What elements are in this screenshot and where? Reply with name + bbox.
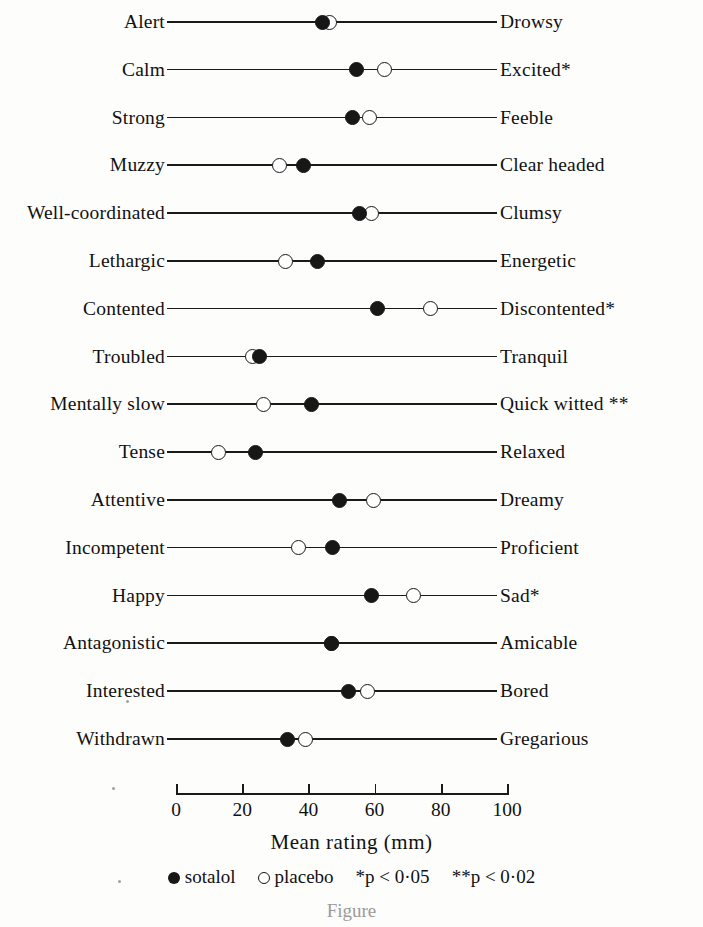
chart-row: WithdrawnGregarious bbox=[0, 725, 703, 753]
sotalol-point bbox=[349, 62, 364, 77]
axis-tick-label: 80 bbox=[431, 799, 451, 821]
axis-tick bbox=[375, 784, 377, 795]
row-left-label: Attentive bbox=[91, 486, 165, 514]
row-scale-line bbox=[167, 595, 497, 597]
scan-speck bbox=[126, 700, 129, 703]
axis-tick-label: 20 bbox=[232, 799, 252, 821]
row-right-label: Quick witted ** bbox=[500, 390, 629, 418]
legend-note-p002: **p < 0·02 bbox=[452, 866, 536, 887]
chart-legend: sotalolplacebo*p < 0·05**p < 0·02 bbox=[0, 866, 703, 888]
sotalol-point bbox=[310, 254, 325, 269]
row-scale-line bbox=[167, 738, 497, 740]
row-right-label: Bored bbox=[500, 677, 549, 705]
placebo-point bbox=[364, 206, 379, 221]
row-scale-line bbox=[167, 212, 497, 214]
axis-tick bbox=[242, 784, 244, 795]
row-scale-line bbox=[167, 356, 497, 358]
chart-row: HappySad* bbox=[0, 582, 703, 610]
sotalol-point bbox=[341, 684, 356, 699]
row-left-label: Alert bbox=[124, 8, 165, 36]
axis-tick-label: 100 bbox=[492, 799, 521, 821]
row-scale-line bbox=[167, 403, 497, 405]
placebo-point bbox=[377, 62, 392, 77]
chart-row: LethargicEnergetic bbox=[0, 247, 703, 275]
sotalol-point bbox=[345, 110, 360, 125]
sotalol-point bbox=[296, 158, 311, 173]
chart-row: MuzzyClear headed bbox=[0, 151, 703, 179]
placebo-point bbox=[256, 397, 271, 412]
chart-row: StrongFeeble bbox=[0, 104, 703, 132]
row-left-label: Troubled bbox=[93, 343, 165, 371]
axis-tick bbox=[308, 784, 310, 795]
placebo-point bbox=[291, 540, 306, 555]
row-scale-line bbox=[167, 308, 497, 310]
open-circle-icon bbox=[258, 872, 270, 884]
placebo-point bbox=[366, 493, 381, 508]
placebo-point bbox=[278, 254, 293, 269]
chart-row: AttentiveDreamy bbox=[0, 486, 703, 514]
row-left-label: Contented bbox=[83, 295, 165, 323]
x-axis-title: Mean rating (mm) bbox=[0, 830, 703, 855]
row-scale-line bbox=[167, 164, 497, 166]
row-left-label: Well-coordinated bbox=[27, 199, 165, 227]
sotalol-point bbox=[252, 349, 267, 364]
row-left-label: Strong bbox=[112, 104, 165, 132]
row-right-label: Dreamy bbox=[500, 486, 564, 514]
sotalol-point bbox=[364, 588, 379, 603]
x-axis: 020406080100 bbox=[176, 793, 507, 795]
sotalol-point bbox=[325, 540, 340, 555]
row-right-label: Excited* bbox=[500, 56, 571, 84]
row-right-label: Amicable bbox=[500, 629, 577, 657]
legend-label-sotalol: sotalol bbox=[185, 866, 236, 887]
sotalol-point bbox=[352, 206, 367, 221]
sotalol-point bbox=[324, 636, 339, 651]
axis-tick-label: 40 bbox=[299, 799, 319, 821]
chart-row: AntagonisticAmicable bbox=[0, 629, 703, 657]
scan-speck bbox=[112, 787, 115, 790]
chart-row: TroubledTranquil bbox=[0, 343, 703, 371]
row-right-label: Drowsy bbox=[500, 8, 563, 36]
legend-note-p005: *p < 0·05 bbox=[356, 866, 430, 887]
placebo-point bbox=[406, 588, 421, 603]
row-scale-line bbox=[167, 690, 497, 692]
row-right-label: Sad* bbox=[500, 582, 540, 610]
row-scale-line bbox=[167, 260, 497, 262]
row-left-label: Withdrawn bbox=[76, 725, 165, 753]
axis-tick bbox=[441, 784, 443, 795]
legend-item-placebo: placebo bbox=[258, 866, 334, 887]
row-left-label: Mentally slow bbox=[50, 390, 165, 418]
row-scale-line bbox=[167, 117, 497, 119]
row-left-label: Happy bbox=[112, 582, 165, 610]
row-scale-line bbox=[167, 69, 497, 71]
row-right-label: Clear headed bbox=[500, 151, 605, 179]
chart-row: CalmExcited* bbox=[0, 56, 703, 84]
sotalol-point bbox=[248, 445, 263, 460]
sotalol-point bbox=[304, 397, 319, 412]
row-left-label: Tense bbox=[119, 438, 165, 466]
row-left-label: Incompetent bbox=[65, 534, 165, 562]
placebo-point bbox=[211, 445, 226, 460]
row-left-label: Muzzy bbox=[110, 151, 165, 179]
row-left-label: Antagonistic bbox=[63, 629, 165, 657]
axis-tick bbox=[176, 784, 178, 795]
placebo-point bbox=[272, 158, 287, 173]
chart-row: TenseRelaxed bbox=[0, 438, 703, 466]
chart-row: Well-coordinatedClumsy bbox=[0, 199, 703, 227]
row-right-label: Feeble bbox=[500, 104, 553, 132]
row-right-label: Relaxed bbox=[500, 438, 565, 466]
filled-circle-icon bbox=[168, 872, 180, 884]
chart-row: InterestedBored bbox=[0, 677, 703, 705]
row-right-label: Clumsy bbox=[500, 199, 562, 227]
chart-row: AlertDrowsy bbox=[0, 8, 703, 36]
sotalol-point bbox=[280, 732, 295, 747]
row-left-label: Calm bbox=[122, 56, 165, 84]
row-left-label: Lethargic bbox=[89, 247, 165, 275]
legend-item-sotalol: sotalol bbox=[168, 866, 236, 887]
sotalol-point bbox=[315, 15, 330, 30]
sotalol-point bbox=[370, 301, 385, 316]
placebo-point bbox=[360, 684, 375, 699]
scan-speck bbox=[118, 880, 121, 883]
axis-tick-label: 0 bbox=[171, 799, 181, 821]
chart-row: Mentally slowQuick witted ** bbox=[0, 390, 703, 418]
placebo-point bbox=[298, 732, 313, 747]
